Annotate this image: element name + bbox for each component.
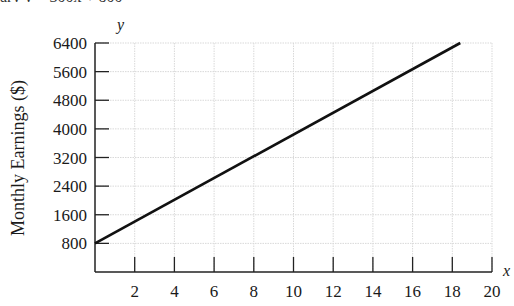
earnings-line xyxy=(95,43,460,243)
y-tick-label: 1600 xyxy=(53,206,87,225)
y-tick-label: 2400 xyxy=(53,177,87,196)
line-chart: 2468101214161820 80016002400320040004800… xyxy=(0,0,514,306)
x-tick-label: 14 xyxy=(364,282,382,301)
x-tick-label: 8 xyxy=(250,282,259,301)
x-tick-label: 18 xyxy=(444,282,461,301)
x-axis-label: x xyxy=(502,262,510,279)
x-tick-labels: 2468101214161820 xyxy=(130,282,500,301)
x-tick-label: 16 xyxy=(404,282,421,301)
x-tick-label: 12 xyxy=(325,282,342,301)
y-tick-label: 5600 xyxy=(53,63,87,82)
x-tick-label: 10 xyxy=(285,282,302,301)
y-axis-label: y xyxy=(115,16,125,34)
y-tick-label: 6400 xyxy=(53,34,87,53)
x-tick-label: 2 xyxy=(130,282,139,301)
y-tick-label: 3200 xyxy=(53,149,87,168)
x-tick-label: 20 xyxy=(484,282,501,301)
data-series xyxy=(95,43,460,243)
x-tick-label: 6 xyxy=(210,282,219,301)
gridlines xyxy=(95,43,492,272)
x-tick-label: 4 xyxy=(170,282,179,301)
y-axis-title: Monthly Earnings ($) xyxy=(8,80,29,236)
y-tick-label: 4800 xyxy=(53,91,87,110)
y-tick-label: 800 xyxy=(62,234,88,253)
y-tick-label: 4000 xyxy=(53,120,87,139)
y-tick-labels: 8001600240032004000480056006400 xyxy=(53,34,87,253)
